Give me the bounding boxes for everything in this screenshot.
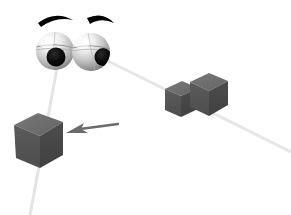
scene-canvas [0, 0, 291, 215]
scene-background [0, 0, 291, 215]
left-eye [36, 32, 74, 70]
left-eye-pupil [47, 48, 66, 67]
gaze-scene: Gaze direction illustration Two cartoon … [0, 0, 291, 215]
